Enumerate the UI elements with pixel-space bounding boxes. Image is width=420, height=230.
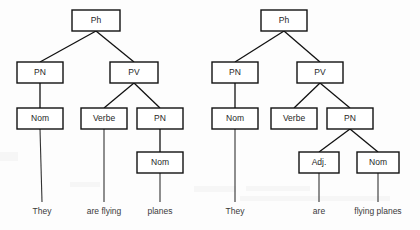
tree-node: Ph [261, 10, 307, 31]
node-label: Ph [91, 15, 102, 25]
node-label: Nom [369, 157, 387, 167]
leaf-word: planes [147, 206, 172, 216]
tree-edge [284, 31, 320, 62]
node-label: PN [229, 67, 241, 77]
tree-edge [350, 129, 378, 152]
tree-edge [319, 129, 350, 152]
leaf-word: They [33, 206, 53, 216]
tree-node: Verbe [81, 108, 127, 129]
tree-node: Nom [17, 108, 63, 129]
tree-node: Nom [212, 108, 258, 129]
tree-edge [40, 31, 96, 62]
tree-edge [235, 31, 284, 62]
node-label: PV [128, 67, 140, 77]
tree-node: Adj. [299, 152, 339, 173]
leaf-stem [40, 129, 42, 202]
tree-node: Ph [72, 10, 120, 31]
tree-node: PV [297, 62, 343, 83]
node-label: PN [344, 113, 356, 123]
node-label: Nom [151, 157, 169, 167]
node-label: Verbe [283, 113, 305, 123]
tree-node: Verbe [271, 108, 317, 129]
node-label: PN [154, 113, 166, 123]
figure-canvas: PhPNPVNomVerbePNNomPhPNPVNomVerbePNAdj.N… [0, 0, 420, 230]
leaf-label-layer: Theyare flyingplanesTheyareflying planes [33, 206, 402, 216]
tree-edge [320, 83, 350, 108]
leaf-word: are flying [87, 206, 122, 216]
tree-node: Nom [137, 152, 183, 173]
tree-edge [96, 31, 134, 62]
node-label: PV [314, 67, 326, 77]
node-layer: PhPNPVNomVerbePNNomPhPNPVNomVerbePNAdj.N… [17, 10, 399, 173]
syntax-tree-diagram: PhPNPVNomVerbePNNomPhPNPVNomVerbePNAdj.N… [0, 0, 420, 230]
tree-edge [294, 83, 320, 108]
tree-node: PN [137, 108, 183, 129]
tree-node: PN [327, 108, 373, 129]
node-label: Adj. [312, 157, 327, 167]
tree-node: PV [110, 62, 158, 83]
node-label: Ph [279, 15, 290, 25]
node-label: Nom [226, 113, 244, 123]
tree-edge [134, 83, 160, 108]
node-label: Nom [31, 113, 49, 123]
edge-layer [40, 31, 378, 152]
leaf-word: flying planes [354, 206, 401, 216]
tree-node: Nom [357, 152, 399, 173]
leaf-word: They [226, 206, 246, 216]
tree-node: PN [17, 62, 63, 83]
node-label: PN [34, 67, 46, 77]
node-label: Verbe [93, 113, 115, 123]
tree-node: PN [212, 62, 258, 83]
leaf-word: are [313, 206, 326, 216]
tree-edge [104, 83, 134, 108]
